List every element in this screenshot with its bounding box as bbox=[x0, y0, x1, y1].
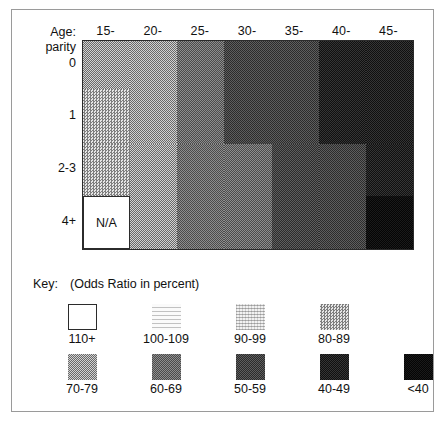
legend-swatch bbox=[404, 354, 433, 380]
row-label-23: 2-3 bbox=[20, 161, 76, 175]
legend-swatch bbox=[236, 354, 265, 380]
legend-swatch bbox=[152, 304, 181, 330]
heatmap-cell bbox=[224, 144, 272, 196]
heatmap-grid: N/A bbox=[82, 40, 414, 250]
legend-label: 90-99 bbox=[215, 332, 285, 346]
heatmap-cell bbox=[177, 196, 224, 249]
column-label-20: 20- bbox=[129, 24, 176, 38]
legend-caption: (Odds Ratio in percent) bbox=[70, 277, 199, 291]
heatmap-cell bbox=[130, 89, 177, 144]
heatmap-cell bbox=[130, 196, 177, 249]
heatmap-cell bbox=[83, 41, 130, 89]
heatmap-cell bbox=[177, 41, 224, 89]
heatmap-cell bbox=[319, 196, 366, 249]
legend-panel: Key:(Odds Ratio in percent) 110+100-1099… bbox=[0, 272, 445, 412]
heatmap-panel: Age: parity 15-20-25-30-35-40-45- 012-34… bbox=[0, 0, 445, 270]
heatmap-cell bbox=[366, 144, 413, 196]
heatmap-cell bbox=[319, 89, 366, 144]
legend-label: 110+ bbox=[47, 332, 117, 346]
heatmap-cell bbox=[224, 41, 272, 89]
legend-swatch bbox=[68, 354, 97, 380]
column-label-45: 45- bbox=[365, 24, 412, 38]
heatmap-cell bbox=[130, 144, 177, 196]
heatmap-cell bbox=[319, 144, 366, 196]
row-label-0: 0 bbox=[20, 56, 76, 70]
heatmap-cell bbox=[224, 196, 272, 249]
column-label-30: 30- bbox=[223, 24, 270, 38]
heatmap-cell bbox=[177, 89, 224, 144]
axis-title-age: Age: bbox=[20, 25, 76, 39]
heatmap-cell bbox=[224, 89, 272, 144]
heatmap-cell bbox=[272, 144, 319, 196]
legend-label: 70-79 bbox=[47, 382, 117, 396]
legend-swatch bbox=[320, 304, 349, 330]
heatmap-cell bbox=[366, 196, 413, 249]
column-label-25: 25- bbox=[176, 24, 223, 38]
row-label-4: 4+ bbox=[20, 214, 76, 228]
column-label-40: 40- bbox=[318, 24, 365, 38]
legend-key-word: Key: bbox=[33, 277, 58, 291]
heatmap-cell bbox=[272, 89, 319, 144]
heatmap-cell bbox=[366, 89, 413, 144]
column-label-35: 35- bbox=[271, 24, 318, 38]
legend-label: 80-89 bbox=[299, 332, 369, 346]
heatmap-cell bbox=[366, 41, 413, 89]
legend-label: <40 bbox=[383, 382, 445, 396]
legend-label: 100-109 bbox=[131, 332, 201, 346]
heatmap-cell bbox=[83, 89, 130, 144]
legend-label: 60-69 bbox=[131, 382, 201, 396]
heatmap-cell bbox=[177, 144, 224, 196]
legend-swatch bbox=[236, 304, 265, 330]
legend-label: 50-59 bbox=[215, 382, 285, 396]
odds-ratio-heatmap-figure: Age: parity 15-20-25-30-35-40-45- 012-34… bbox=[0, 0, 445, 422]
heatmap-cell bbox=[319, 41, 366, 89]
legend-heading: Key:(Odds Ratio in percent) bbox=[33, 277, 199, 291]
heatmap-cell-na: N/A bbox=[83, 196, 130, 249]
heatmap-cell bbox=[272, 41, 319, 89]
heatmap-cell bbox=[83, 144, 130, 196]
legend-swatch bbox=[320, 354, 349, 380]
heatmap-cell bbox=[130, 41, 177, 89]
legend-swatch bbox=[152, 354, 181, 380]
axis-title-parity: parity bbox=[20, 40, 76, 54]
column-label-15: 15- bbox=[82, 24, 129, 38]
row-label-1: 1 bbox=[20, 108, 76, 122]
heatmap-cell bbox=[272, 196, 319, 249]
legend-label: 40-49 bbox=[299, 382, 369, 396]
legend-swatch bbox=[68, 304, 97, 330]
